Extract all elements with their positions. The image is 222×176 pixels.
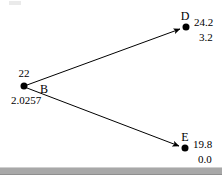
node-b-value-bottom: 2.0257	[11, 95, 41, 106]
node-dot-d[interactable]	[183, 24, 190, 31]
node-e-value-top: 19.8	[193, 139, 212, 150]
node-b-value-top: 22	[19, 68, 30, 79]
diagram-canvas: 22 B 2.0257 D 24.2 3.2 E 19.8 0.0	[0, 0, 222, 176]
node-d-value-top: 24.2	[194, 17, 213, 28]
node-d-value-bottom: 3.2	[199, 32, 213, 43]
node-e-label: E	[181, 131, 188, 143]
node-b-label: B	[40, 83, 48, 95]
edge-b-to-d	[27, 29, 180, 85]
node-e-value-bottom: 0.0	[198, 154, 212, 165]
node-d-label: D	[181, 10, 190, 22]
edge-b-to-e	[27, 88, 179, 146]
node-dot-e[interactable]	[182, 145, 189, 152]
ground-bar	[0, 167, 222, 175]
node-dot-b[interactable]	[21, 83, 28, 90]
